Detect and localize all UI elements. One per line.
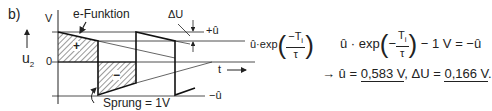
sprung-pointer-icon bbox=[91, 88, 96, 103]
equation-2: → û = 0,583 V, ΔU = 0,166 V. bbox=[322, 66, 492, 81]
delta-u-label: ΔU bbox=[168, 8, 183, 20]
plus-u-label: +û bbox=[206, 24, 219, 36]
plus-area-label: + bbox=[73, 41, 80, 51]
efunktion-label: e-Funktion bbox=[73, 7, 130, 21]
efunktion-pointer-icon bbox=[80, 22, 86, 33]
y-axis-label: u2 bbox=[22, 50, 34, 69]
delta-u-result: 0,166 V bbox=[444, 66, 488, 82]
sprung-label: Sprung = 1V bbox=[103, 96, 170, 110]
exp-level-label: û·exp(−Tiτ) bbox=[250, 30, 314, 60]
time-label: t bbox=[218, 63, 221, 75]
equation-1: û · exp(−Tiτ) − 1 V = −û bbox=[340, 29, 481, 59]
zero-label: 0 bbox=[46, 55, 52, 67]
minus-u-label: −û bbox=[209, 89, 222, 101]
u-hat-result: 0,583 V bbox=[361, 66, 405, 82]
minus-area-label: − bbox=[113, 70, 120, 80]
y-unit-label: V bbox=[45, 12, 52, 24]
